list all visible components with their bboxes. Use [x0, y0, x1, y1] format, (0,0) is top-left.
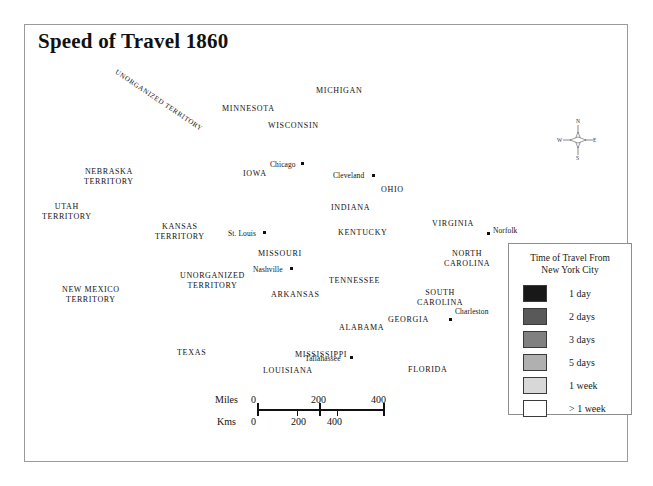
- state-label-carolina: NORTHCAROLINA: [444, 249, 490, 269]
- scale-miles-tick-0: 0: [251, 394, 256, 405]
- state-label-tennessee: TENNESSEE: [329, 276, 380, 285]
- city-label-newyork: New York: [430, 153, 461, 162]
- city-dot-tallahassee: [350, 356, 353, 359]
- territory-label-kansas: KANSASTERRITORY: [155, 222, 205, 242]
- state-label-virginia: VIRGINIA: [432, 219, 474, 228]
- city-dot-newyork: [463, 155, 466, 158]
- city-dot-cleveland: [372, 174, 375, 177]
- legend-row: > 1 week: [523, 397, 631, 419]
- state-label-iowa: IOWA: [243, 169, 267, 178]
- territory-label-line2: TERRITORY: [84, 177, 134, 187]
- territory-label-line1: NEBRASKA: [84, 167, 134, 177]
- state-abbr-ri: R.I.: [527, 147, 540, 155]
- city-dot-stlouis: [263, 231, 266, 234]
- scale-kms-tick-0: 0: [251, 416, 256, 427]
- state-abbr-nj: N.J.: [496, 183, 509, 191]
- territory-label-utah: UTAHTERRITORY: [42, 202, 92, 222]
- scale-tick-start: [257, 403, 259, 416]
- territory-label-line2: TERRITORY: [62, 295, 120, 305]
- city-label-chicago: Chicago: [270, 160, 296, 169]
- state-label-minnesota: MINNESOTA: [222, 104, 275, 113]
- legend-label: > 1 week: [569, 403, 606, 414]
- compass-rose: N S E W: [556, 118, 600, 164]
- city-dot-charleston: [449, 318, 452, 321]
- scale-bar-line: [257, 409, 385, 411]
- scale-tick-kms-200: [297, 409, 298, 416]
- legend-title-line1: Time of Travel From: [515, 252, 625, 264]
- state-label-missouri: MISSOURI: [258, 249, 302, 258]
- map-page: Speed of Travel 1860 MINNESOTAWISCONSINI…: [0, 0, 653, 486]
- state-label-indiana: INDIANA: [331, 203, 370, 212]
- state-label-georgia: GEORGIA: [388, 315, 429, 324]
- state-abbr-vt: VT: [496, 94, 506, 102]
- territory-label-nebraska: NEBRASKATERRITORY: [84, 167, 134, 187]
- legend-row: 1 week: [523, 374, 631, 396]
- scale-miles-label: Miles: [215, 394, 238, 405]
- state-label-line1: NORTH: [444, 249, 490, 259]
- legend-swatch: [523, 400, 547, 417]
- state-label-michigan: MICHIGAN: [316, 86, 363, 95]
- legend-row: 5 days: [523, 351, 631, 373]
- territory-label-line1: KANSAS: [155, 222, 205, 232]
- compass-west: W: [557, 137, 562, 143]
- territory-label-line2: TERRITORY: [180, 281, 245, 291]
- city-label-stlouis: St. Louis: [228, 229, 256, 238]
- legend-label: 2 days: [569, 311, 595, 322]
- state-label-line1: SOUTH: [417, 288, 463, 298]
- city-label-tallahassee: Tallahassee: [305, 354, 341, 363]
- scale-kms-tick-2: 400: [327, 416, 342, 427]
- legend-label: 5 days: [569, 357, 595, 368]
- compass-south: S: [576, 155, 579, 161]
- city-dot-chicago: [301, 162, 304, 165]
- legend-label: 1 day: [569, 288, 591, 299]
- state-abbr-newyork: NEW YORK: [454, 131, 495, 139]
- legend-row: 1 day: [523, 282, 631, 304]
- state-label-alabama: ALABAMA: [339, 323, 384, 332]
- territory-label-line1: UTAH: [42, 202, 92, 212]
- scale-tick-end: [383, 403, 385, 416]
- city-dot-norfolk: [487, 232, 490, 235]
- territory-label-line2: TERRITORY: [155, 232, 205, 242]
- scale-kms-label: Kms: [217, 416, 236, 427]
- legend-swatch: [523, 354, 547, 371]
- city-dot-nashville: [290, 267, 293, 270]
- state-label-pennsylvania: PENNSYLVANIA: [429, 176, 497, 185]
- state-label-arkansas: ARKANSAS: [271, 290, 320, 299]
- state-label-carolina: SOUTHCAROLINA: [417, 288, 463, 308]
- legend-label: 3 days: [569, 334, 595, 345]
- legend-swatch: [523, 308, 547, 325]
- state-label-wisconsin: WISCONSIN: [268, 121, 319, 130]
- territory-label-new-mexico: NEW MEXICOTERRITORY: [62, 285, 120, 305]
- state-label-florida: FLORIDA: [408, 365, 448, 374]
- city-label-cleveland: Cleveland: [333, 171, 364, 180]
- state-abbr-conn: CONN.: [503, 141, 527, 149]
- legend-row: 2 days: [523, 305, 631, 327]
- city-label-norfolk: Norfolk: [493, 226, 517, 235]
- compass-north: N: [576, 118, 580, 124]
- state-label-louisiana: LOUISIANA: [263, 366, 313, 375]
- legend-swatch: [523, 331, 547, 348]
- territory-label-line1: NEW MEXICO: [62, 285, 120, 295]
- legend-rows: 1 day2 days3 days5 days1 week> 1 week: [509, 282, 631, 419]
- scale-bars: Miles Kms 0 200 400 0 200 400: [215, 392, 395, 434]
- state-label-ohio: OHIO: [381, 185, 404, 194]
- state-abbr-maine: MAINE: [528, 60, 553, 68]
- legend-title: Time of Travel From New York City: [515, 252, 625, 276]
- city-label-nashville: Nashville: [253, 265, 283, 274]
- state-abbr-md: MD.: [470, 192, 485, 200]
- page-title: Speed of Travel 1860: [38, 29, 228, 54]
- state-label-line2: CAROLINA: [444, 259, 490, 269]
- state-abbr-nh: NH: [512, 110, 523, 118]
- city-dot-boston: [533, 120, 536, 123]
- legend-swatch: [523, 285, 547, 302]
- legend-label: 1 week: [569, 380, 598, 391]
- scale-kms-tick-1: 200: [291, 416, 306, 427]
- scale-tick-mid-miles: [319, 403, 321, 416]
- territory-label-line1: UNORGANIZED: [180, 271, 245, 281]
- state-label-texas: TEXAS: [177, 348, 206, 357]
- compass-east: E: [593, 137, 596, 143]
- legend: Time of Travel From New York City 1 day2…: [508, 243, 632, 415]
- legend-row: 3 days: [523, 328, 631, 350]
- territory-label-unorganized: UNORGANIZEDTERRITORY: [180, 271, 245, 291]
- territory-label-line2: TERRITORY: [42, 212, 92, 222]
